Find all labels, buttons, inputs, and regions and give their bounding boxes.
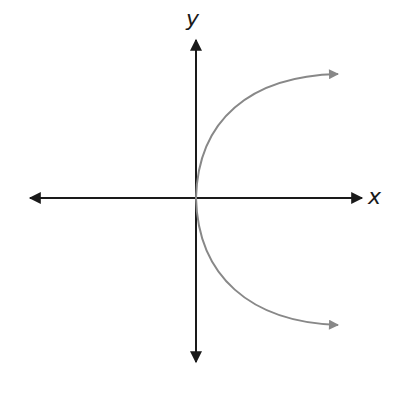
parabola-lower-branch bbox=[196, 198, 338, 325]
parabola-upper-branch bbox=[196, 74, 338, 198]
y-axis-label: y bbox=[186, 8, 199, 30]
coordinate-diagram bbox=[0, 0, 400, 394]
x-axis-label: x bbox=[368, 186, 381, 208]
